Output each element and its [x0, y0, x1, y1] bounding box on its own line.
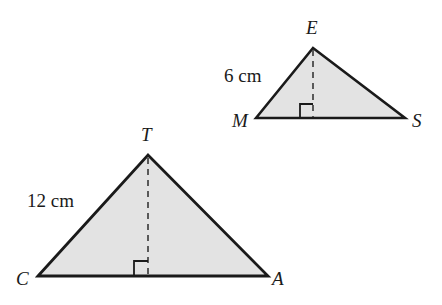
vertex-label-m: M	[232, 111, 248, 130]
vertex-label-a: A	[272, 269, 284, 288]
side-measure-small: 6 cm	[224, 66, 261, 85]
triangle-cta-shape	[38, 155, 268, 276]
vertex-label-t: T	[141, 125, 152, 144]
triangle-mes-shape	[256, 48, 405, 118]
vertex-label-c: C	[16, 269, 29, 288]
side-measure-large: 12 cm	[27, 191, 74, 210]
vertex-label-e: E	[306, 18, 318, 37]
vertex-label-s: S	[412, 111, 422, 130]
triangles-canvas	[0, 0, 442, 305]
geometry-figure: M E S C T A 6 cm 12 cm	[0, 0, 442, 305]
